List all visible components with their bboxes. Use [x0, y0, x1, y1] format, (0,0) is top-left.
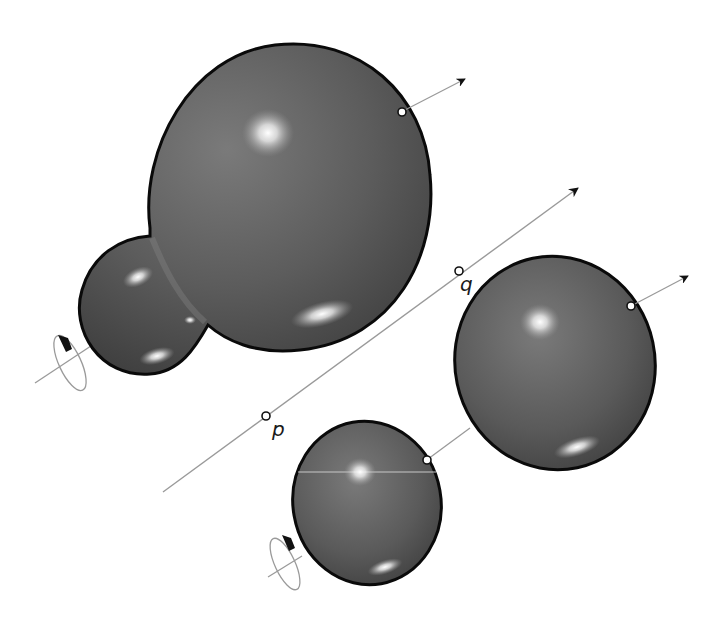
rotation-marker-bottom	[264, 534, 306, 593]
contact-point-bottom-sphere	[423, 456, 431, 464]
label-q: q	[460, 272, 473, 296]
diagram-canvas: p q	[0, 0, 717, 626]
rotation-arrowhead-icon	[58, 335, 72, 352]
contact-point-right-sphere	[627, 302, 635, 310]
velocity-arrow-right-sphere	[631, 276, 688, 306]
rotation-marker-left	[47, 331, 92, 395]
diagram-svg: p q	[0, 0, 717, 626]
bottom-ellipsoid	[280, 409, 454, 596]
blob-outline	[79, 44, 431, 374]
axis-segment-between-spheres	[428, 428, 470, 459]
highlight-large-top	[242, 109, 294, 157]
label-p: p	[271, 417, 285, 441]
velocity-arrow-large-sphere	[403, 79, 465, 111]
rotation-arrowhead-icon	[282, 535, 295, 551]
highlight-right-top	[520, 304, 560, 340]
point-p-marker	[262, 412, 270, 420]
highlight-bottom-top	[344, 458, 376, 486]
highlight-seam	[184, 316, 196, 324]
contact-point-large-sphere	[398, 108, 406, 116]
fused-sphere-blob	[79, 44, 431, 374]
